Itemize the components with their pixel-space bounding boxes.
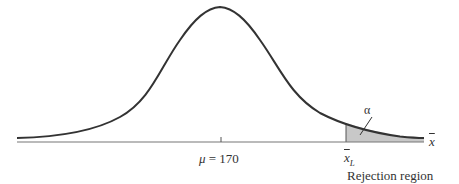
normal-curve (17, 7, 424, 138)
alpha-label: α (364, 103, 370, 118)
critical-value-subscript: L (350, 158, 355, 168)
rejection-region-label: Rejection region (347, 168, 433, 184)
mean-value: = 170 (209, 151, 239, 166)
x-axis-symbol: x (429, 134, 435, 149)
critical-value-label: xL (344, 150, 355, 168)
x-axis-label: x (429, 134, 435, 150)
mean-symbol: μ (199, 151, 206, 166)
mean-label: μ = 170 (199, 151, 239, 167)
rejection-region-shading (346, 123, 424, 142)
